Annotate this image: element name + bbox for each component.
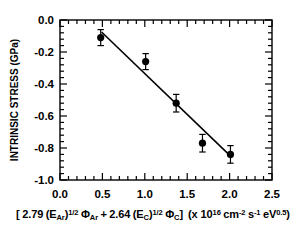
- xlabel-phi-c: Φ: [165, 208, 174, 220]
- y-tick-label: -0.4: [34, 78, 54, 90]
- xlabel-exp-half-2: 1/2: [153, 208, 163, 217]
- data-point-marker: [173, 100, 180, 107]
- xlabel-phi-ar: Φ: [81, 208, 90, 220]
- x-tick-label: 0.5: [94, 188, 111, 200]
- xlabel-coef-c: 2.64: [109, 208, 130, 220]
- x-tick-label: 1.0: [137, 188, 153, 200]
- xlabel-close-bracket: ]: [179, 208, 183, 220]
- xlabel-ev: eV: [263, 208, 276, 220]
- y-tick-label: -0.8: [34, 142, 54, 154]
- scatter-plot: 0.0-0.2-0.4-0.6-0.8-1.0 0.00.51.01.52.02…: [0, 0, 306, 236]
- xlabel-e-ar-open: (E: [46, 208, 57, 220]
- xlabel-exp-ev: 0.5: [276, 208, 286, 217]
- x-tick-label: 1.5: [179, 188, 196, 200]
- xlabel-exp-cm: -2: [239, 208, 245, 217]
- x-tick-label: 0.0: [52, 188, 68, 200]
- data-point-marker: [199, 140, 206, 147]
- y-tick-label: 0.0: [38, 14, 54, 26]
- xlabel-paren-open: (x 10: [188, 208, 213, 220]
- chart-figure: 0.0-0.2-0.4-0.6-0.8-1.0 0.00.51.01.52.02…: [0, 0, 306, 236]
- data-point-marker: [142, 58, 149, 65]
- y-tick-label: -0.6: [34, 110, 54, 122]
- y-axis-title: INTRINSIC STRESS (GPa): [9, 39, 20, 161]
- data-point-marker: [227, 151, 234, 158]
- y-tick-label: -1.0: [34, 174, 54, 186]
- xlabel-open-bracket: [: [16, 208, 20, 220]
- xlabel-e-ar-sub: Ar: [57, 213, 65, 222]
- x-axis-title: [2.79(EAr)1/2ΦAr+2.64(EC)1/2ΦC](x 1016cm…: [0, 206, 306, 224]
- xlabel-coef-ar: 2.79: [22, 208, 43, 220]
- xlabel-cm: cm: [223, 208, 239, 220]
- xlabel-exp-s: -1: [254, 208, 260, 217]
- xlabel-phi-ar-sub: Ar: [90, 213, 98, 222]
- x-tick-label: 2.0: [222, 188, 238, 200]
- xlabel-plus: +: [100, 208, 106, 220]
- xlabel-exp-16: 16: [213, 208, 221, 217]
- xlabel-e-c-open: (E: [133, 208, 144, 220]
- x-tick-label: 2.5: [264, 188, 281, 200]
- xlabel-exp-half-1: 1/2: [68, 208, 78, 217]
- data-point-marker: [97, 34, 104, 41]
- y-tick-label: -0.2: [34, 46, 54, 58]
- xlabel-paren-close: ): [286, 208, 290, 220]
